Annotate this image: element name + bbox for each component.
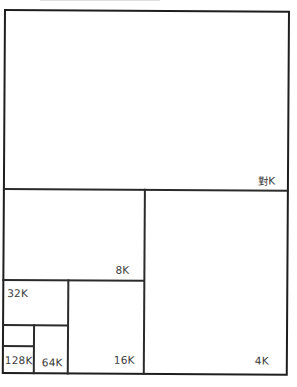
divider-8k-bottom (2, 279, 144, 282)
region-label-top: 對K (258, 173, 275, 188)
region-label-32k: 32K (7, 287, 28, 299)
divider-16k-vertical (67, 279, 70, 374)
cropped-header-fragment (40, 0, 160, 1)
diagram-frame: 對K 4K 8K 16K 32K 64K 128K (2, 9, 290, 376)
region-label-16k: 16K (114, 354, 135, 366)
region-label-8k: 8K (115, 264, 129, 276)
region-label-4k: 4K (255, 355, 269, 367)
region-label-128k: 128K (5, 354, 33, 366)
divider-128k-top (2, 345, 34, 347)
divider-64k-vertical (33, 324, 35, 374)
region-label-64k: 64K (42, 356, 63, 368)
